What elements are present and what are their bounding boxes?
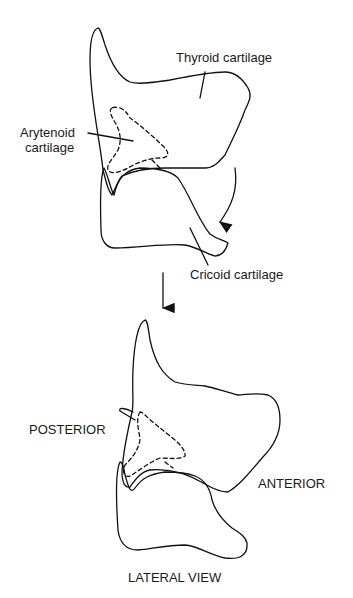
arytenoid-leader [88,133,133,141]
arytenoid-cartilage-top [108,107,168,172]
cricoid-cartilage-label: Cricoid cartilage [190,268,283,282]
arytenoid-cartilage-label-line1: Arytenoid [20,126,75,140]
cricoid-cartilage-top [101,168,228,256]
anterior-label: ANTERIOR [258,477,325,491]
larynx-diagram [0,0,353,598]
lateral-view-caption: LATERAL VIEW [128,571,221,585]
arytenoid-cartilage-bottom [124,412,185,476]
posterior-label: POSTERIOR [29,423,106,437]
arytenoid-cartilage-label-line2: cartilage [25,141,74,155]
rotation-arrow [220,168,236,222]
thyroid-cartilage-label: Thyroid cartilage [176,51,272,65]
cricoid-cartilage-bottom [117,462,247,558]
thyroid-leader [200,72,205,98]
